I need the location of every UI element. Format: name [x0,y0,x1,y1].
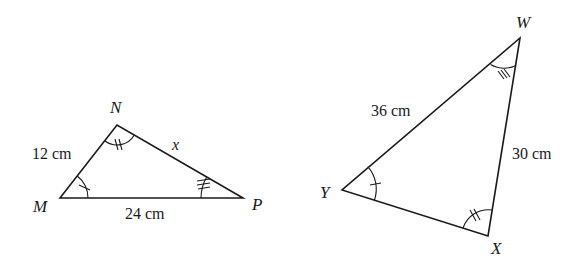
side-label-np: x [171,136,179,153]
triangle-mnp: N M P 12 cm x 24 cm [32,98,262,222]
vertex-label-w: W [516,13,532,32]
angle-mark-x [463,209,492,228]
angle-mark-w [491,65,516,80]
vertex-label-m: M [32,197,48,216]
side-label-mp: 24 cm [125,205,165,222]
vertex-label-p: P [251,195,262,214]
side-label-yw: 36 cm [371,102,411,119]
triangle-mnp-outline [60,125,243,198]
angle-mark-y [368,167,381,201]
triangle-wxy-outline [342,38,520,236]
angle-mark-m [77,176,90,198]
side-label-wx: 30 cm [512,145,552,162]
triangle-wxy: W Y X 36 cm 30 cm [320,13,552,258]
vertex-label-y: Y [320,183,331,202]
angle-mark-n [105,135,135,150]
side-label-mn: 12 cm [32,145,72,162]
similar-triangles-diagram: N M P 12 cm x 24 cm W Y X 36 cm [0,0,581,263]
angle-mark-p [197,177,210,198]
vertex-label-x: X [490,239,502,258]
vertex-label-n: N [109,98,123,117]
